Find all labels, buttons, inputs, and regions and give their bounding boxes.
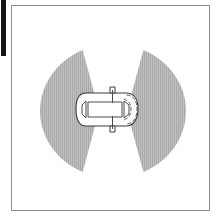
roof-panel — [88, 102, 122, 117]
figure-root: Top view of a car with shaded detection … — [0, 0, 223, 219]
car-top-view — [76, 87, 138, 132]
blind-spot-illustration — [0, 0, 223, 219]
